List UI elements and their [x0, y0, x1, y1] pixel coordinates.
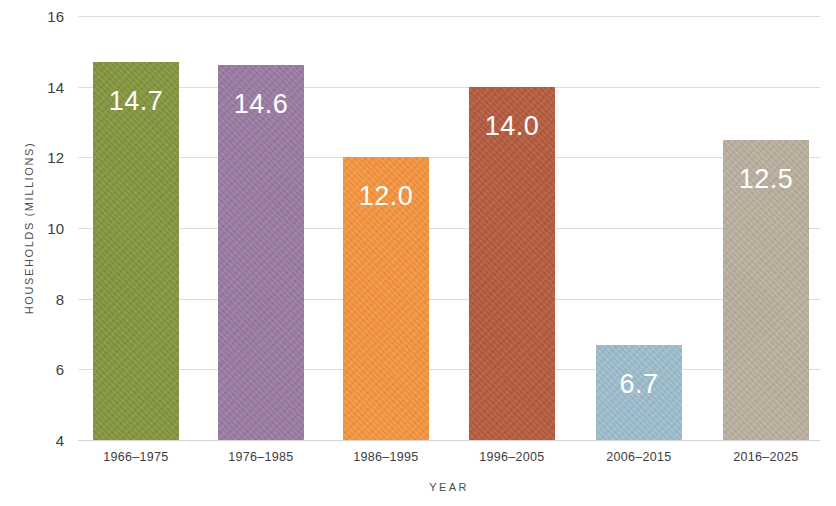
y-tick-label-14: 14	[47, 78, 64, 95]
y-tick-label-6: 6	[56, 361, 64, 378]
bar-value-label-5: 6.7	[596, 371, 682, 398]
x-tick-label-1986-1995: 1986–1995	[343, 450, 429, 464]
x-tick-label-1996-2005: 1996–2005	[469, 450, 555, 464]
bar-value-label-4: 14.0	[469, 113, 555, 140]
bars-group: 14.7 14.6 12.0 14.0 6.7 12.5	[78, 16, 820, 440]
bar-value-label-2: 14.6	[218, 91, 304, 118]
bar-1966-1975[interactable]: 14.7	[93, 62, 179, 440]
y-tick-label-4: 4	[56, 432, 64, 449]
bar-value-label-1: 14.7	[93, 88, 179, 115]
y-tick-label-10: 10	[47, 220, 64, 237]
bar-value-label-3: 12.0	[343, 183, 429, 210]
bar-chart: HOUSEHOLDS (MILLIONS) 16 14 12 10 8 6 4 …	[0, 0, 836, 506]
bar-2006-2015[interactable]: 6.7	[596, 345, 682, 440]
y-tick-label-12: 12	[47, 149, 64, 166]
bar-value-label-6: 12.5	[723, 166, 809, 193]
x-tick-label-2006-2015: 2006–2015	[596, 450, 682, 464]
gridline-4-baseline: 4	[78, 440, 820, 441]
bar-texture-2	[218, 65, 304, 440]
plot-area: 16 14 12 10 8 6 4 14.7 14.6 12.0 14.	[78, 16, 820, 440]
y-tick-label-8: 8	[56, 290, 64, 307]
bar-2016-2025[interactable]: 12.5	[723, 140, 809, 440]
x-tick-label-2016-2025: 2016–2025	[723, 450, 809, 464]
bar-1976-1985[interactable]: 14.6	[218, 65, 304, 440]
x-axis-title: YEAR	[78, 481, 820, 493]
x-tick-label-1966-1975: 1966–1975	[93, 450, 179, 464]
y-tick-label-16: 16	[47, 8, 64, 25]
x-tick-label-1976-1985: 1976–1985	[218, 450, 304, 464]
bar-1996-2005[interactable]: 14.0	[469, 87, 555, 440]
y-axis-title: HOUSEHOLDS (MILLIONS)	[23, 103, 35, 353]
bar-1986-1995[interactable]: 12.0	[343, 157, 429, 440]
bar-texture-1	[93, 62, 179, 440]
